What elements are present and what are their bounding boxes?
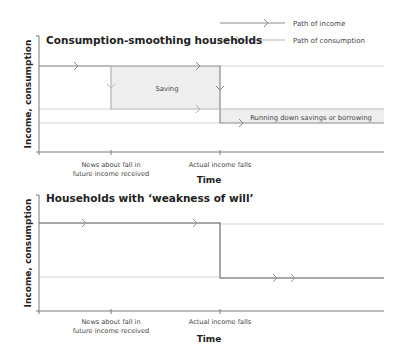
top-chart-title: Consumption-smoothing households — [46, 34, 262, 46]
saving-label: Saving — [155, 85, 178, 93]
top-y-axis-label: Income, consumption — [23, 40, 33, 149]
bottom-chart-title: Households with ‘weakness of will’ — [46, 192, 254, 204]
tick-news-line1: News about fall in — [81, 318, 140, 326]
bottom-x-axis-label: Time — [197, 334, 222, 344]
tick-news-line2: future income received — [73, 170, 150, 178]
tick-income-falls: Actual income falls — [189, 161, 252, 169]
tick-income-falls: Actual income falls — [189, 318, 252, 326]
top-x-axis-label: Time — [197, 175, 222, 185]
consumption-smoothing-diagram: Path of income Path of consumption Consu… — [0, 0, 405, 362]
top-chart: Consumption-smoothing households Saving … — [23, 34, 384, 185]
bottom-chart: Households with ‘weakness of will’ Incom… — [23, 192, 384, 344]
legend-consumption-label: Path of consumption — [293, 37, 365, 45]
legend-income-label: Path of income — [293, 20, 345, 28]
borrowing-label: Running down savings or borrowing — [250, 114, 372, 122]
bottom-y-axis-label: Income, consumption — [23, 199, 33, 308]
tick-news-line1: News about fall in — [81, 161, 140, 169]
legend-income: Path of income — [220, 19, 345, 28]
tick-news-line2: future income received — [73, 327, 150, 335]
income-consumption-path — [39, 223, 384, 278]
